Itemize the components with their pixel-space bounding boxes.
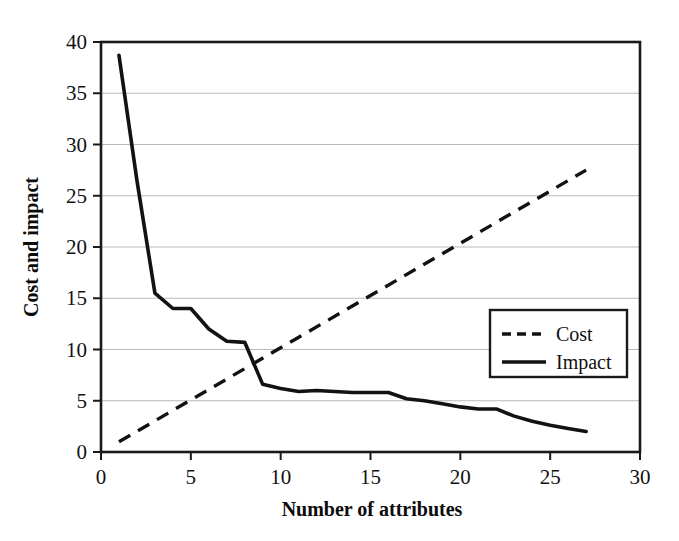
y-tick-label: 35 [66,81,87,105]
x-tick-label: 10 [270,465,291,489]
x-tick-label: 20 [450,465,471,489]
line-chart: 0510152025303540 051015202530 Cost and i… [0,0,679,541]
x-tick-label: 0 [96,465,107,489]
x-tick-label: 5 [186,465,197,489]
x-tick-label: 25 [540,465,561,489]
chart-legend: Cost Impact [490,310,627,377]
x-tick-label: 15 [360,465,381,489]
x-axis-title: Number of attributes [282,498,463,520]
legend-label-cost: Cost [556,323,593,345]
y-tick-label: 15 [66,286,87,310]
y-tick-label: 20 [66,235,87,259]
y-axis-title: Cost and impact [20,177,43,317]
legend-label-impact: Impact [556,351,612,374]
chart-figure: 0510152025303540 051015202530 Cost and i… [0,0,679,541]
y-tick-label: 5 [77,389,88,413]
y-tick-label: 0 [77,440,88,464]
y-tick-label: 40 [66,30,87,54]
y-tick-label: 25 [66,184,87,208]
x-tick-label: 30 [630,465,651,489]
y-tick-label: 10 [66,338,87,362]
y-tick-label: 30 [66,133,87,157]
